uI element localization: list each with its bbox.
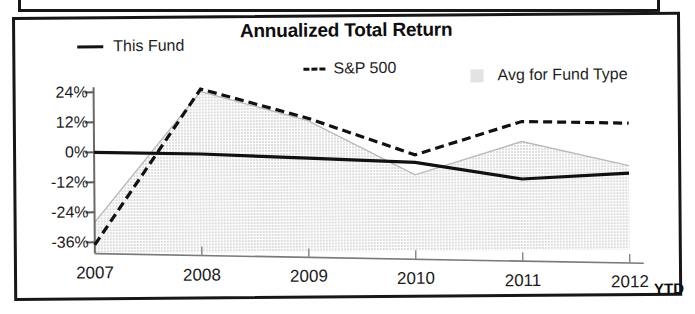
x-axis-tick-label: 2012 <box>611 272 649 292</box>
y-axis-tick-label: 12% <box>22 113 88 132</box>
plot-area <box>15 15 685 304</box>
x-axis-tick-label: 2007 <box>76 263 114 283</box>
y-axis-tick-label: -24% <box>22 203 88 222</box>
page-panel-above-edge <box>18 0 660 12</box>
y-axis-labels: 24%12%0%-12%-24%-36% <box>15 19 89 298</box>
y-axis-tick-label: -36% <box>23 233 89 252</box>
x-axis-ytd-label: YTD <box>654 280 684 297</box>
series-area-avg-for-fund-type <box>94 88 630 253</box>
x-axis-tick-label: 2010 <box>397 269 435 289</box>
y-axis-tick-label: -12% <box>22 173 88 192</box>
x-axis-tick-label: 2008 <box>183 265 221 285</box>
x-axis-tick-label: 2011 <box>505 270 542 290</box>
annualized-total-return-chart: Annualized Total Return This Fund S&P 50… <box>12 12 682 301</box>
x-axis-tick-label: 2009 <box>290 267 328 287</box>
y-axis-tick-label: 24% <box>22 83 88 102</box>
y-axis-tick-label: 0% <box>22 143 88 162</box>
